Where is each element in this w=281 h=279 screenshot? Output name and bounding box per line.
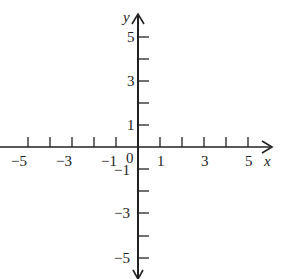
x-axis-label: x bbox=[263, 153, 271, 169]
y-tick-label: 5 bbox=[127, 29, 135, 45]
x-tick-label: 5 bbox=[245, 153, 253, 169]
y-tick-label: 3 bbox=[127, 73, 135, 89]
y-tick-label: −5 bbox=[114, 250, 130, 266]
x-tick-label: −5 bbox=[11, 153, 27, 169]
x-tick-label: −3 bbox=[56, 153, 72, 169]
coordinate-plane: −5 −3 −1 0 1 3 5 x y 5 3 1 −1 −3 −5 bbox=[0, 0, 281, 279]
y-tick-label: −3 bbox=[114, 205, 130, 221]
y-tick-label: 1 bbox=[127, 117, 135, 133]
x-tick-label: 1 bbox=[157, 153, 165, 169]
y-axis-label: y bbox=[121, 9, 130, 25]
y-tick-label: −1 bbox=[114, 162, 130, 178]
x-tick-label: 3 bbox=[201, 153, 209, 169]
